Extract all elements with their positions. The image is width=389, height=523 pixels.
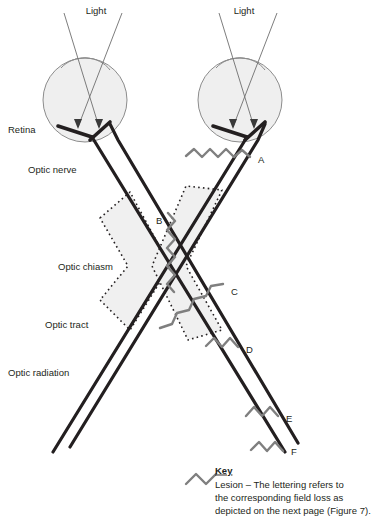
label-optic-radiation: Optic radiation	[8, 367, 69, 378]
label-light-left: Light	[86, 5, 107, 16]
label-lesion-d: D	[246, 344, 253, 355]
key-line-2: the corresponding field loss as	[215, 492, 344, 503]
lesion-d-zigzag	[206, 338, 238, 347]
key-lesion-symbol-icon	[186, 474, 216, 484]
chiasm-right-chevron	[152, 186, 222, 340]
key-line-3: depicted on the next page (Figure 7).	[215, 505, 371, 516]
label-optic-chiasm: Optic chiasm	[58, 261, 113, 272]
right-eye-globe	[198, 58, 282, 142]
label-optic-nerve: Optic nerve	[28, 164, 77, 175]
right-eye-group	[198, 13, 282, 142]
label-lesion-e: E	[286, 413, 292, 424]
key-heading: Key	[215, 465, 233, 476]
label-lesion-c: C	[231, 286, 238, 297]
label-retina: Retina	[8, 124, 36, 135]
label-optic-tract: Optic tract	[45, 319, 89, 330]
label-lesion-f: F	[291, 446, 297, 457]
right-eye-crossed-fibre	[53, 137, 247, 452]
left-eye-group	[43, 13, 127, 142]
visual-pathway-figure: Light Light Retina Optic nerve Optic chi…	[0, 0, 389, 523]
key-legend: Key Lesion – The lettering refers to the…	[215, 465, 371, 516]
lesion-a-zigzag	[186, 149, 250, 157]
visual-pathway-diagram: Light Light Retina Optic nerve Optic chi…	[0, 0, 389, 523]
label-light-right: Light	[234, 5, 255, 16]
label-lesion-a: A	[258, 154, 265, 165]
key-line-1: Lesion – The lettering refers to	[215, 479, 344, 490]
label-lesion-b: B	[156, 215, 162, 226]
